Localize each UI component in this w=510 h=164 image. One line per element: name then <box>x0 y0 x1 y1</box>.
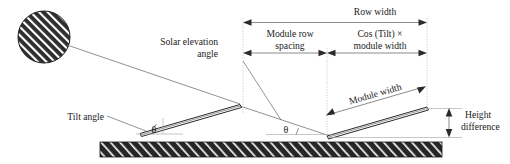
ground-hatched-bar <box>100 142 442 157</box>
sun-icon <box>18 11 70 63</box>
tilt-angle-label: Tilt angle <box>67 111 104 122</box>
solar-elevation-angle-label-line2: angle <box>197 48 218 59</box>
row-width-label: Row width <box>354 6 397 17</box>
tilt-angle-leader <box>107 116 146 131</box>
module-row-spacing-label-line1: Module row <box>266 28 313 39</box>
front-theta-symbol: θ <box>152 124 157 135</box>
cos-tilt-module-width-label-line2: module width <box>353 40 406 51</box>
cos-tilt-module-width-label-line1: Cos (Tilt) × <box>357 28 402 40</box>
row-width-dimension <box>243 19 427 26</box>
rear-theta-symbol: θ <box>284 124 289 135</box>
row-spacing-dimension <box>243 50 427 57</box>
height-difference-label-line2: difference <box>461 121 500 132</box>
height-difference-label-line1: Height <box>465 109 491 120</box>
solar-elevation-leader <box>243 61 281 120</box>
solar-module-geometry-diagram: Row width Module row spacing Cos (Tilt) … <box>0 0 510 164</box>
diagram-canvas: Row width Module row spacing Cos (Tilt) … <box>0 0 510 164</box>
module-row-spacing-label-line2: spacing <box>275 40 305 51</box>
height-difference-dimension <box>446 108 453 138</box>
solar-elevation-angle-label-line1: Solar elevation <box>160 36 218 47</box>
rear-pv-module <box>327 107 429 139</box>
module-width-label: Module width <box>348 81 403 107</box>
